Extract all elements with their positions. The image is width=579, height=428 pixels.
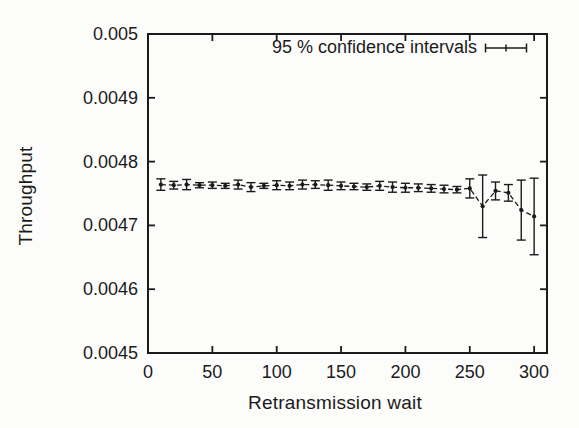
data-point (352, 184, 356, 188)
data-point (185, 182, 189, 186)
data-point (300, 182, 304, 186)
data-point (468, 186, 472, 190)
data-point (159, 182, 163, 186)
y-axis: 0.00450.00460.00470.00480.00490.005 (83, 24, 547, 363)
y-tick-label: 0.0048 (83, 152, 138, 172)
data-point (197, 183, 201, 187)
x-tick-label: 100 (262, 362, 292, 382)
data-point (390, 185, 394, 189)
data-point (481, 204, 485, 208)
y-tick-label: 0.0049 (83, 88, 138, 108)
data-point (339, 184, 343, 188)
data-point (275, 183, 279, 187)
data-point (249, 185, 253, 189)
y-axis-title: Throughput (15, 146, 37, 245)
data-point (442, 187, 446, 191)
errorbar-sample-icon (484, 41, 528, 55)
data-point (262, 184, 266, 188)
x-tick-label: 200 (390, 362, 420, 382)
x-tick-label: 300 (519, 362, 549, 382)
y-tick-label: 0.005 (93, 24, 138, 44)
x-axis-title: Retransmission wait (248, 392, 422, 414)
data-point (429, 186, 433, 190)
data-point (378, 184, 382, 188)
x-tick-label: 50 (202, 362, 222, 382)
data-point (493, 189, 497, 193)
data-point (326, 183, 330, 187)
x-axis: 050100150200250300 (143, 34, 549, 382)
series-line (161, 185, 534, 217)
data-point (287, 184, 291, 188)
plot-frame (148, 34, 547, 353)
data-point (223, 184, 227, 188)
y-tick-label: 0.0046 (83, 279, 138, 299)
x-tick-label: 250 (455, 362, 485, 382)
legend: 95 % confidence intervals (272, 37, 528, 58)
plot-area: 0501001502002503000.00450.00460.00470.00… (0, 0, 579, 428)
data-point (403, 186, 407, 190)
x-tick-label: 0 (143, 362, 153, 382)
data-point (455, 188, 459, 192)
data-point (172, 183, 176, 187)
data-point (236, 182, 240, 186)
data-series (156, 175, 538, 255)
y-tick-label: 0.0045 (83, 343, 138, 363)
data-point (506, 191, 510, 195)
x-tick-label: 150 (326, 362, 356, 382)
y-tick-label: 0.0047 (83, 215, 138, 235)
data-point (313, 182, 317, 186)
data-point (416, 186, 420, 190)
data-point (532, 214, 536, 218)
data-point (210, 183, 214, 187)
throughput-vs-retransmission-chart: 0501001502002503000.00450.00460.00470.00… (0, 0, 579, 428)
data-point (365, 185, 369, 189)
data-point (519, 208, 523, 212)
legend-label: 95 % confidence intervals (272, 37, 477, 58)
